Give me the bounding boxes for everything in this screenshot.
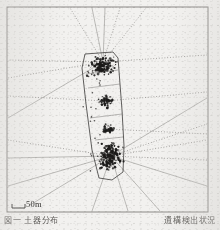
paper-background	[0, 0, 220, 230]
figure-caption: 図一 土器分布 遺構検出状況	[0, 214, 220, 230]
caption-right-text: 遺構検出状況	[164, 214, 216, 225]
scale-bar-label: 50m	[26, 199, 42, 209]
scanned-figure	[0, 0, 220, 230]
caption-left-text: 図一 土器分布	[4, 214, 59, 225]
